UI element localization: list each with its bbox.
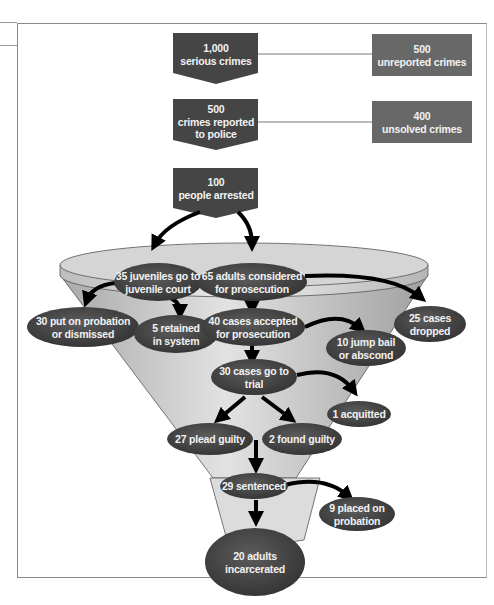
label-sentenced: 29 sentenced — [222, 480, 286, 493]
label-line: incarcerated — [225, 562, 285, 575]
label-line: 10 jump bail — [337, 336, 395, 349]
label-plead: 27 plead guilty — [175, 433, 245, 446]
label-trial: 30 cases go totrial — [219, 365, 289, 390]
label-line: 2 found guilty — [269, 433, 335, 446]
label-jump-bail: 10 jump bailor abscond — [337, 336, 395, 361]
label-line: crimes reported — [178, 116, 254, 129]
label-line: juvenile court — [116, 282, 201, 295]
label-line: 9 placed on — [329, 502, 385, 515]
label-line: 20 adults — [225, 550, 285, 563]
label-juveniles: 35 juveniles go tojuvenile court — [116, 270, 201, 295]
label-incarcerated: 20 adultsincarcerated — [225, 550, 285, 575]
label-found: 2 found guilty — [269, 433, 335, 446]
label-accepted: 40 cases acceptedfor prosecution — [209, 315, 298, 340]
label-line: 100 — [178, 176, 253, 189]
arrow-to-adults — [238, 212, 252, 244]
label-line: dropped — [409, 324, 451, 337]
label-line: 30 put on probation — [36, 315, 130, 328]
label-line: 400 — [382, 110, 462, 123]
label-line: probation — [329, 514, 385, 527]
label-line: 65 adults considered — [202, 270, 302, 283]
label-line: to police — [178, 128, 254, 141]
label-line: 1,000 — [180, 42, 251, 55]
label-line: 25 cases — [409, 312, 451, 325]
label-line: 40 cases accepted — [209, 315, 298, 328]
label-people-arrested: 100people arrested — [178, 176, 253, 201]
label-acquitted: 1 acquitted — [332, 408, 385, 421]
label-unsolved-crimes: 400unsolved crimes — [382, 110, 462, 135]
label-line: or abscond — [337, 348, 395, 361]
label-line: people arrested — [178, 188, 253, 201]
label-line: 500 — [378, 43, 467, 56]
label-line: unreported crimes — [378, 55, 467, 68]
label-crimes-reported: 500crimes reportedto police — [178, 103, 254, 141]
label-line: serious crimes — [180, 54, 251, 67]
label-line: trial — [219, 377, 289, 390]
label-line: 27 plead guilty — [175, 433, 245, 446]
label-adults: 65 adults consideredfor prosecution — [202, 270, 302, 295]
label-serious-crimes: 1,000serious crimes — [180, 42, 251, 67]
label-retained: 5 retainedin system — [152, 322, 200, 347]
label-line: for prosecution — [209, 327, 298, 340]
label-line: 1 acquitted — [332, 408, 385, 421]
label-line: 35 juveniles go to — [116, 270, 201, 283]
label-line: 30 cases go to — [219, 365, 289, 378]
label-dropped: 25 casesdropped — [409, 312, 451, 337]
label-line: for prosecution — [202, 282, 302, 295]
label-line: or dismissed — [36, 327, 130, 340]
label-line: in system — [152, 334, 200, 347]
label-line: 5 retained — [152, 322, 200, 335]
label-unreported-crimes: 500unreported crimes — [378, 43, 467, 68]
label-line: 500 — [178, 103, 254, 116]
label-line: 29 sentenced — [222, 480, 286, 493]
arrow-to-juveniles — [155, 212, 200, 244]
funnel-diagram — [0, 0, 494, 605]
label-placed-probation: 9 placed onprobation — [329, 502, 385, 527]
label-probation-dismissed: 30 put on probationor dismissed — [36, 315, 130, 340]
label-line: unsolved crimes — [382, 122, 462, 135]
